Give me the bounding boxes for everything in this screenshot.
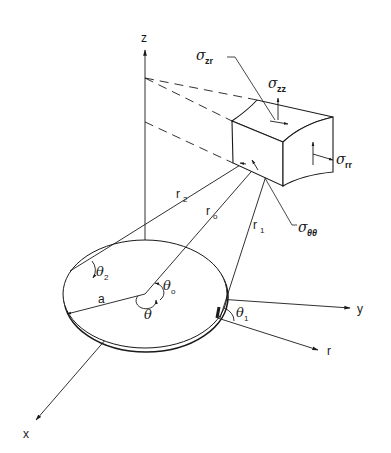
svg-text:o: o <box>171 287 176 296</box>
svg-text:rr: rr <box>345 160 353 170</box>
sigma-rr-label: σ rr <box>336 151 353 170</box>
svg-text:r: r <box>253 218 257 232</box>
dashed-line-bottom <box>145 122 233 163</box>
svg-text:zz: zz <box>277 84 287 94</box>
svg-text:2: 2 <box>104 273 109 282</box>
disk-edge-marker <box>217 307 219 318</box>
y-axis-label: y <box>357 302 363 316</box>
dashed-line-top <box>145 78 257 100</box>
svg-text:θθ: θθ <box>307 228 317 238</box>
r-axis-label: r <box>327 344 331 358</box>
svg-text:1: 1 <box>260 226 265 235</box>
theta-label: θ <box>144 307 152 322</box>
x-axis-label: x <box>23 427 29 441</box>
svg-text:zr: zr <box>205 56 214 66</box>
svg-text:r: r <box>206 204 210 218</box>
stress-diagram: z y r x a r 2 r o r 1 θ θ o θ 1 θ 2 σ zr… <box>0 0 391 453</box>
r1-label: r 1 <box>253 218 265 235</box>
sigma-theta-theta-label: σ θθ <box>298 219 317 238</box>
sigma-zz-label: σ zz <box>268 75 287 94</box>
sigma-zr-label: σ zr <box>196 47 214 66</box>
theta1-label: θ 1 <box>236 305 249 323</box>
dashed-line-mid <box>145 78 232 121</box>
radius-a-label: a <box>98 292 105 306</box>
r0-label: r o <box>206 204 218 221</box>
svg-text:θ: θ <box>163 278 171 293</box>
svg-text:2: 2 <box>183 195 188 204</box>
svg-text:1: 1 <box>244 314 249 323</box>
svg-text:θ: θ <box>96 264 104 279</box>
svg-text:o: o <box>213 212 218 221</box>
z-axis-label: z <box>141 31 147 45</box>
svg-text:r: r <box>176 187 180 201</box>
volume-element <box>232 100 333 186</box>
svg-text:θ: θ <box>236 305 244 320</box>
